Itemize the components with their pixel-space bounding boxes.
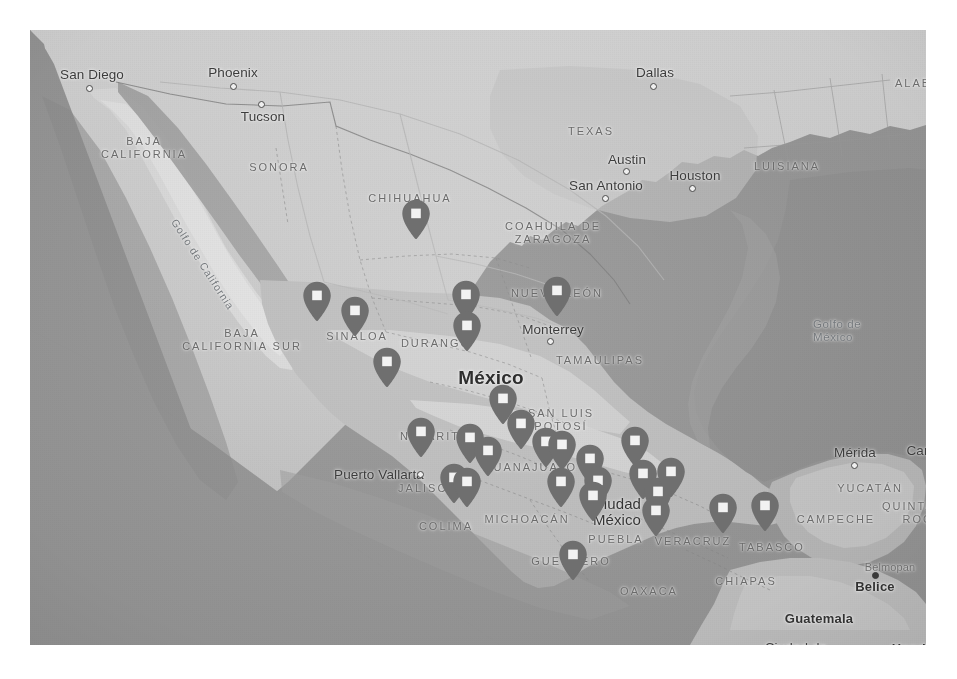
- map-marker[interactable]: [302, 281, 332, 322]
- map-markers-layer[interactable]: [30, 30, 926, 645]
- map-marker[interactable]: [452, 467, 482, 508]
- map-marker[interactable]: [401, 199, 431, 240]
- map-marker[interactable]: [546, 467, 576, 508]
- map-marker[interactable]: [406, 417, 436, 458]
- map-marker[interactable]: [578, 481, 608, 522]
- map-marker[interactable]: [542, 276, 572, 317]
- map-marker[interactable]: [656, 457, 686, 498]
- map-canvas[interactable]: Golfo de CaliforniaGolfo deMéxicoBAJACAL…: [30, 30, 926, 645]
- map-marker[interactable]: [558, 540, 588, 581]
- map-marker[interactable]: [641, 496, 671, 537]
- map-marker[interactable]: [452, 311, 482, 352]
- map-marker[interactable]: [372, 347, 402, 388]
- map-marker[interactable]: [750, 491, 780, 532]
- map-marker[interactable]: [547, 430, 577, 471]
- screenshot-root: Golfo de CaliforniaGolfo deMéxicoBAJACAL…: [0, 0, 957, 679]
- map-marker[interactable]: [708, 493, 738, 534]
- map-marker[interactable]: [340, 296, 370, 337]
